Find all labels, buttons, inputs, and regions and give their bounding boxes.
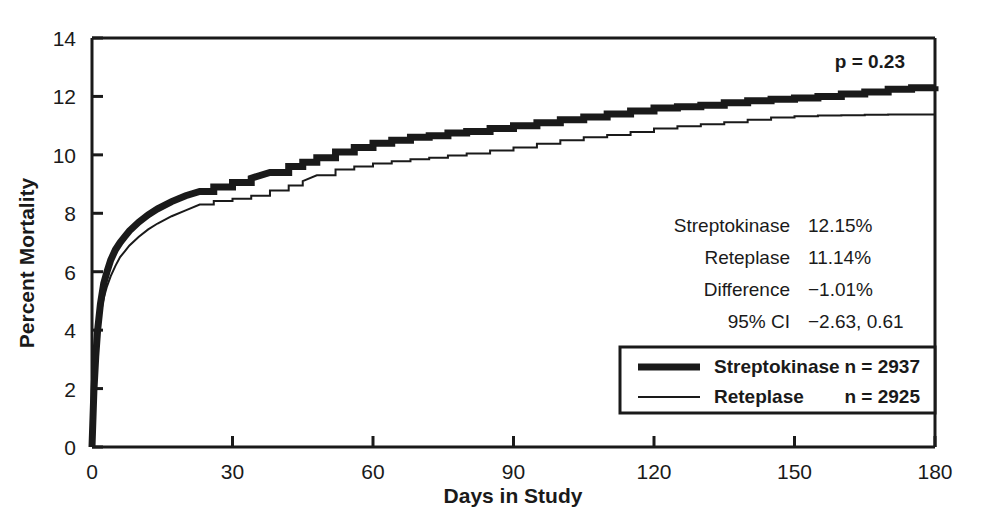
stat-row-value: −1.01%: [808, 279, 873, 300]
x-tick-label: 180: [917, 460, 952, 483]
legend-label-streptokinase: Streptokinase: [714, 356, 840, 377]
y-tick-label: 10: [53, 144, 76, 167]
y-tick-label: 6: [64, 261, 76, 284]
statistics-panel: Streptokinase12.15%Reteplase11.14%Differ…: [674, 215, 904, 332]
stat-row-value: 11.14%: [808, 247, 871, 268]
stat-row-label: Streptokinase: [674, 215, 790, 236]
y-tick-label: 12: [53, 85, 76, 108]
p-value-annotation: p = 0.23: [835, 51, 905, 72]
x-axis-title: Days in Study: [444, 484, 583, 507]
x-tick-label: 120: [636, 460, 671, 483]
y-tick-label: 0: [64, 436, 76, 459]
x-tick-label: 30: [221, 460, 244, 483]
legend-label-reteplase: Reteplase: [714, 386, 804, 407]
x-tick-label: 60: [361, 460, 384, 483]
x-tick-label: 0: [86, 460, 98, 483]
stat-row-label: Difference: [704, 279, 790, 300]
stat-row-label: 95% CI: [728, 311, 790, 332]
legend-count-streptokinase: n = 2937: [844, 356, 920, 377]
chart-canvas: 02468101214 0306090120150180 Days in Stu…: [0, 0, 982, 528]
x-tick-label: 90: [502, 460, 525, 483]
y-axis-title: Percent Mortality: [15, 177, 38, 348]
y-axis-tick-labels: 02468101214: [53, 27, 77, 459]
kaplan-meier-mortality-figure: 02468101214 0306090120150180 Days in Stu…: [0, 0, 982, 528]
x-axis-tick-labels: 0306090120150180: [86, 460, 952, 483]
legend: Streptokinasen = 2937Reteplasen = 2925: [620, 347, 935, 413]
y-tick-label: 14: [53, 27, 77, 50]
legend-count-reteplase: n = 2925: [844, 386, 920, 407]
stat-row-value: −2.63, 0.61: [808, 311, 904, 332]
y-tick-label: 4: [64, 319, 76, 342]
y-tick-label: 2: [64, 378, 76, 401]
x-axis-ticks: [92, 436, 935, 447]
stat-row-value: 12.15%: [808, 215, 873, 236]
stat-row-label: Reteplase: [704, 247, 790, 268]
y-tick-label: 8: [64, 202, 76, 225]
x-tick-label: 150: [777, 460, 812, 483]
